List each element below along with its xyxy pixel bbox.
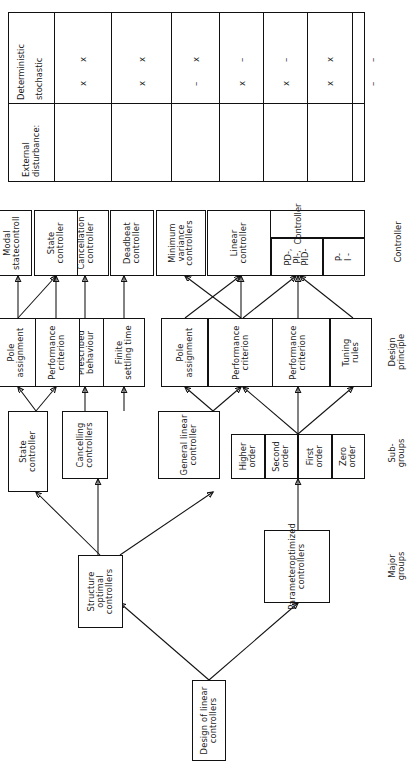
mark-stochastic: – [237, 58, 247, 62]
table-row-linear: x x [112, 12, 172, 182]
node-parameteroptimized-controllers[interactable]: Parameteroptimized controllers [264, 530, 330, 603]
table-row-label-deterministic: Deterministic [14, 20, 30, 100]
node-linear-controller-box[interactable]: Linear controller [207, 210, 271, 276]
row-label-design-principle: Design principle [388, 315, 407, 389]
mark-deterministic: x [78, 81, 88, 86]
table-row-state-ctrl: x x [308, 12, 353, 182]
node-minimum-variance-controllers[interactable]: Minimum variance controllers [156, 210, 206, 276]
mark-stochastic: x [78, 57, 88, 62]
node-deadbeat-controller[interactable]: Deadbeat controller [110, 210, 154, 276]
table-row-cancellation: x – [220, 12, 264, 182]
node-higher-order[interactable]: Higher order [231, 434, 265, 479]
mark-deterministic: – [191, 82, 201, 86]
table-header-title: External disturbance: [14, 105, 50, 177]
node-zero-order[interactable]: Zero order [332, 434, 366, 479]
node-pole-assignment-general-linear[interactable]: Pole assignment [161, 318, 208, 387]
mark-deterministic: x [137, 81, 147, 86]
row-label-controller: Controller [394, 207, 403, 277]
table-row-modal: – – [353, 12, 393, 182]
node-pole-assignment-state[interactable]: Pole assignment [0, 318, 36, 387]
node-performance-criterion-state[interactable]: Performance criterion [33, 318, 80, 387]
mark-deterministic: x [325, 81, 335, 86]
row-label-sub-groups: Sub- groups [388, 423, 407, 483]
node-second-order[interactable]: Second order [265, 434, 299, 479]
node-structure-optimal-controllers[interactable]: Structure optimal controllers [78, 555, 123, 628]
node-first-order[interactable]: First order [298, 434, 332, 479]
node-performance-criterion-param[interactable]: Performance criterion [265, 318, 330, 387]
mark-stochastic: x [137, 57, 147, 62]
node-finite-settling-time[interactable]: Finite settling time [103, 318, 145, 387]
mark-stochastic: x [325, 57, 335, 62]
figure-canvas: Design of linear controllers Parameterop… [0, 0, 418, 779]
node-cancelling-controllers[interactable]: Cancelling controllers [62, 411, 108, 479]
node-general-linear-controller[interactable]: General linear controller [158, 411, 220, 479]
node-modal-statecontroller[interactable]: Modal statecontroll [0, 210, 32, 276]
node-performance-criterion-general[interactable]: Performance criterion [208, 318, 273, 387]
mark-deterministic: x [237, 81, 247, 86]
mark-deterministic: – [368, 82, 378, 86]
table-row-pi-pid: x x [54, 12, 112, 182]
external-disturbance-table: External disturbance: Deterministic stoc… [8, 12, 373, 182]
mark-stochastic: – [281, 58, 291, 62]
mark-deterministic: x [281, 81, 291, 86]
row-label-major-groups: Major groups [388, 531, 407, 601]
node-root[interactable]: Design of linear controllers [192, 680, 226, 761]
table-row-deadbeat: x – [264, 12, 308, 182]
mark-stochastic: – [368, 58, 378, 62]
node-state-controller-result[interactable]: State controller [34, 210, 78, 276]
node-tuning-rules[interactable]: Tuning rules [330, 318, 372, 387]
node-p-i-cell[interactable]: P- I - [323, 238, 365, 276]
node-state-controller-group[interactable]: State controller [8, 411, 48, 492]
node-order-strip: Higher order Second order First order Ze… [231, 434, 365, 479]
table-row-label-stochastic: stochastic [32, 20, 48, 100]
table-row-minvar: – x [172, 12, 220, 182]
table-body: x x x x – x x – x – x x [54, 12, 365, 182]
mark-stochastic: x [191, 57, 201, 62]
